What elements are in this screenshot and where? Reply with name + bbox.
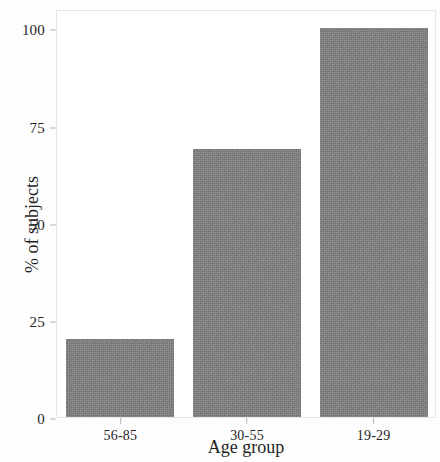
bar: [320, 28, 428, 417]
y-axis-tick-mark: [50, 419, 56, 420]
x-axis-tick-mark: [246, 418, 247, 424]
x-axis-tick-mark: [120, 418, 121, 424]
plot-area: 0255075100 56-8530-5519-29: [56, 10, 436, 418]
x-axis-title: Age group: [56, 437, 436, 458]
y-axis-tick: 0: [37, 411, 57, 428]
y-axis-tick-mark: [50, 321, 56, 322]
y-axis-tick-mark: [50, 127, 56, 128]
y-axis-tick-label: 100: [22, 22, 45, 39]
y-axis-tick-label: 0: [37, 411, 45, 428]
y-axis-tick-mark: [50, 224, 56, 225]
x-axis-tick-mark: [373, 418, 374, 424]
bar: [193, 149, 301, 417]
y-axis-tick: 100: [22, 22, 57, 39]
bar-series: [57, 11, 435, 417]
y-axis-tick-mark: [50, 30, 56, 31]
y-axis-title: % of subjects: [22, 110, 43, 340]
bar: [66, 339, 174, 417]
bar-chart-figure: 0255075100 56-8530-5519-29 % of subjects…: [0, 0, 440, 462]
